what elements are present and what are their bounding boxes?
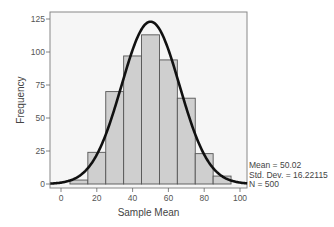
- x-tick-label: 60: [164, 193, 174, 203]
- x-tick-label: 100: [233, 193, 247, 203]
- y-tick-label: 0: [40, 179, 45, 189]
- x-axis-label: Sample Mean: [50, 207, 247, 218]
- histogram-bar: [195, 154, 213, 184]
- histogram-bar: [142, 35, 160, 184]
- x-tick-label: 0: [59, 193, 64, 203]
- histogram-chart: 0255075100125 020406080100: [0, 0, 334, 227]
- x-tick-label: 80: [199, 193, 209, 203]
- y-tick-label: 50: [36, 113, 46, 123]
- y-tick-label: 100: [31, 47, 45, 57]
- y-tick-label: 125: [31, 14, 45, 24]
- x-tick-label: 20: [92, 193, 102, 203]
- histogram-bar: [159, 60, 177, 184]
- x-axis: 020406080100: [59, 188, 248, 203]
- y-tick-label: 75: [36, 80, 46, 90]
- x-tick-label: 40: [128, 193, 138, 203]
- stats-legend: Mean = 50.02 Std. Dev. = 16.22115 N = 50…: [249, 161, 328, 190]
- y-tick-label: 25: [36, 146, 46, 156]
- histogram-bar: [124, 56, 142, 184]
- y-axis-label: Frequency: [15, 76, 26, 123]
- y-axis: 0255075100125: [31, 14, 50, 189]
- n-stat: N = 500: [249, 180, 328, 190]
